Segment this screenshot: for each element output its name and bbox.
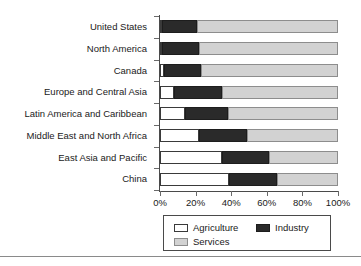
legend-label: Services <box>193 236 229 247</box>
footer-divider <box>0 256 361 257</box>
y-axis-tick <box>154 125 159 126</box>
bar-segment-industry <box>222 151 268 164</box>
x-axis-tick <box>196 191 197 196</box>
bar-segment-services <box>201 64 338 77</box>
legend-item-services[interactable]: Services <box>174 236 229 247</box>
bar-row <box>160 64 338 77</box>
legend-item-agriculture[interactable]: Agriculture <box>174 222 238 233</box>
bar-segment-services <box>269 151 338 164</box>
bar-segment-industry <box>199 129 247 142</box>
bar-segment-services <box>197 20 338 33</box>
legend-item-industry[interactable]: Industry <box>256 222 309 233</box>
bar-segment-services <box>228 107 338 120</box>
y-axis-tick <box>154 16 159 17</box>
category-label: United States <box>90 16 147 38</box>
bar-row <box>160 151 338 164</box>
bar-segment-agriculture <box>160 20 162 33</box>
x-axis-tick <box>338 191 339 196</box>
legend-swatch-agri-icon <box>174 224 188 232</box>
y-axis-tick <box>154 38 159 39</box>
category-label: Europe and Central Asia <box>44 81 147 103</box>
bar-segment-industry <box>162 42 199 55</box>
x-axis-tick <box>267 191 268 196</box>
bar-segment-agriculture <box>160 42 162 55</box>
bar-row <box>160 20 338 33</box>
legend-swatch-serv-icon <box>174 238 188 246</box>
x-axis-tick-label: 40% <box>222 197 241 208</box>
bar-segment-services <box>247 129 338 142</box>
x-axis-tick-label: 20% <box>186 197 205 208</box>
x-axis-tick-label: 100% <box>326 197 350 208</box>
y-axis-tick <box>154 81 159 82</box>
y-axis-tick <box>154 168 159 169</box>
bar-row <box>160 107 338 120</box>
bar-segment-services <box>199 42 338 55</box>
x-axis-tick <box>160 191 161 196</box>
bar-segment-industry <box>164 64 201 77</box>
category-label: East Asia and Pacific <box>58 147 147 169</box>
category-label: China <box>122 168 147 190</box>
chart-plot-region: United StatesNorth AmericaCanadaEurope a… <box>0 0 361 240</box>
x-axis-tick-label: 80% <box>293 197 312 208</box>
bar-segment-industry <box>162 20 198 33</box>
bar-segment-industry <box>185 107 228 120</box>
y-axis-tick <box>154 60 159 61</box>
bar-row <box>160 42 338 55</box>
bar-row <box>160 173 338 186</box>
category-axis-labels: United StatesNorth AmericaCanadaEurope a… <box>0 16 153 190</box>
chart-legend: AgricultureIndustryServices <box>163 215 331 251</box>
category-label: North America <box>87 38 147 60</box>
legend-label: Industry <box>275 222 309 233</box>
bar-segment-industry <box>174 86 222 99</box>
category-label: Latin America and Caribbean <box>24 103 147 125</box>
x-axis-tick-label: 60% <box>257 197 276 208</box>
legend-label: Agriculture <box>193 222 238 233</box>
bar-row <box>160 86 338 99</box>
bar-segment-services <box>277 173 338 186</box>
x-axis-tick-label: 0% <box>153 197 167 208</box>
category-label: Canada <box>114 60 147 82</box>
legend-swatch-ind-icon <box>256 224 270 232</box>
bar-segment-agriculture <box>160 64 164 77</box>
x-axis-tick <box>231 191 232 196</box>
bar-segment-agriculture <box>160 129 199 142</box>
y-axis-tick <box>154 147 159 148</box>
bar-segment-agriculture <box>160 151 222 164</box>
chart-figure: United StatesNorth AmericaCanadaEurope a… <box>0 0 361 266</box>
x-axis-line <box>159 191 339 192</box>
category-label: Middle East and North Africa <box>27 125 147 147</box>
x-axis-tick <box>302 191 303 196</box>
bar-segment-agriculture <box>160 173 229 186</box>
y-axis-tick <box>154 103 159 104</box>
bar-segment-agriculture <box>160 107 185 120</box>
bar-segment-industry <box>229 173 277 186</box>
bar-segment-agriculture <box>160 86 174 99</box>
bars-container <box>160 16 338 190</box>
bar-row <box>160 129 338 142</box>
bar-segment-services <box>222 86 338 99</box>
